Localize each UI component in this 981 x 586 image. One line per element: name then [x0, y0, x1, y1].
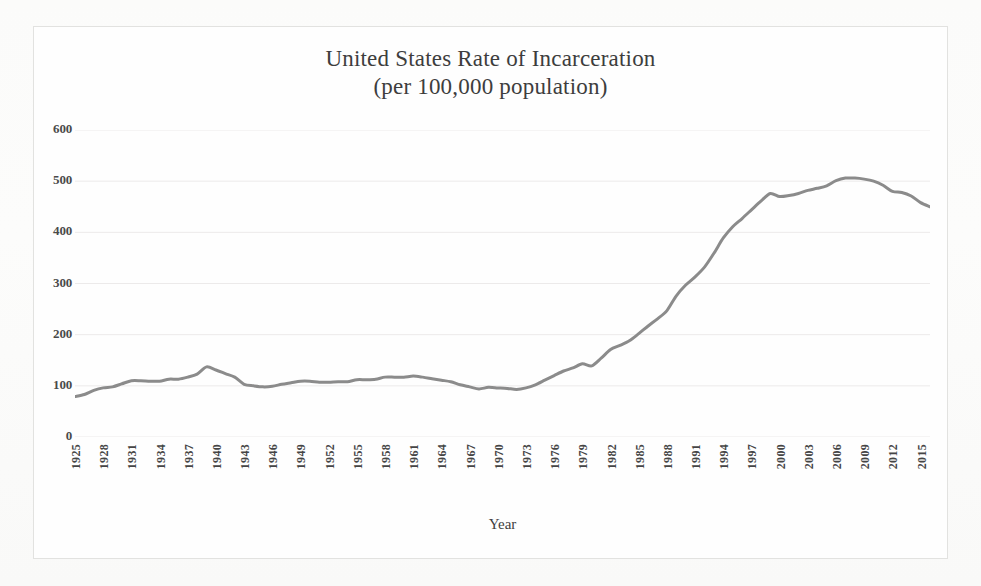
chart-title: United States Rate of Incarceration (per… — [33, 45, 948, 101]
chart-title-line-2: (per 100,000 population) — [33, 73, 948, 101]
x-axis-title: Year — [75, 516, 930, 533]
x-tick-label-1997: 1997 — [745, 444, 760, 469]
x-tick-label-1952: 1952 — [323, 444, 338, 469]
x-tick-label-1931: 1931 — [125, 444, 140, 469]
chart-page: United States Rate of Incarceration (per… — [0, 0, 981, 586]
x-tick-label-1925: 1925 — [69, 444, 84, 469]
x-tick-label-1937: 1937 — [182, 444, 197, 469]
y-tick-label-200: 200 — [32, 326, 72, 342]
series-line-incarceration-rate — [75, 178, 930, 397]
y-tick-label-100: 100 — [32, 377, 72, 393]
y-axis-tick-labels: 6005004003002001000 — [28, 0, 72, 586]
x-tick-label-1958: 1958 — [379, 444, 394, 469]
y-tick-label-300: 300 — [32, 275, 72, 291]
x-tick-label-1967: 1967 — [464, 444, 479, 469]
x-tick-label-1976: 1976 — [548, 444, 563, 469]
gridlines — [75, 130, 930, 437]
x-tick-label-1934: 1934 — [154, 444, 169, 469]
x-tick-label-2009: 2009 — [858, 444, 873, 469]
x-tick-label-1982: 1982 — [605, 444, 620, 469]
x-tick-label-1946: 1946 — [266, 444, 281, 469]
x-tick-label-1940: 1940 — [210, 444, 225, 469]
x-tick-label-1928: 1928 — [97, 444, 112, 469]
y-tick-label-400: 400 — [32, 223, 72, 239]
x-tick-label-1949: 1949 — [294, 444, 309, 469]
x-tick-label-1970: 1970 — [492, 444, 507, 469]
x-axis-tick-labels: 1925192819311934193719401943194619491952… — [75, 444, 930, 510]
incarceration-line-chart — [75, 130, 930, 437]
y-tick-label-0: 0 — [32, 428, 72, 444]
x-tick-label-1979: 1979 — [576, 444, 591, 469]
x-tick-label-1991: 1991 — [689, 444, 704, 469]
y-tick-label-500: 500 — [32, 172, 72, 188]
x-tick-label-2000: 2000 — [774, 444, 789, 469]
x-tick-label-1973: 1973 — [520, 444, 535, 469]
x-tick-label-1985: 1985 — [633, 444, 648, 469]
chart-title-line-1: United States Rate of Incarceration — [325, 46, 655, 71]
y-tick-label-600: 600 — [32, 121, 72, 137]
x-tick-label-1961: 1961 — [407, 444, 422, 469]
x-tick-label-1964: 1964 — [435, 444, 450, 469]
x-tick-label-1955: 1955 — [351, 444, 366, 469]
x-tick-label-2012: 2012 — [886, 444, 901, 469]
x-tick-label-1943: 1943 — [238, 444, 253, 469]
x-tick-label-1988: 1988 — [661, 444, 676, 469]
x-tick-label-1994: 1994 — [717, 444, 732, 469]
x-tick-label-2015: 2015 — [915, 444, 930, 469]
x-tick-label-2006: 2006 — [830, 444, 845, 469]
plot-area — [75, 130, 930, 437]
x-tick-label-2003: 2003 — [802, 444, 817, 469]
